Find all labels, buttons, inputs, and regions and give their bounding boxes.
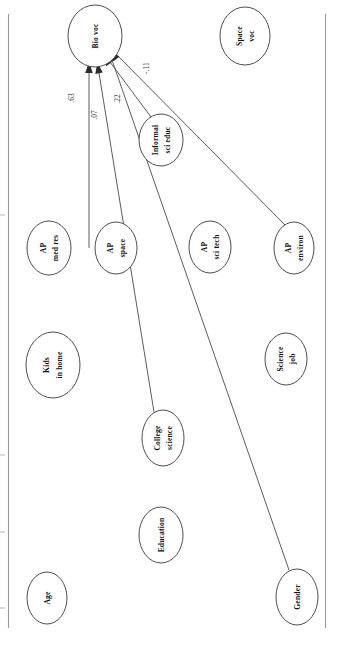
edge-label-college-science: .07 (90, 110, 99, 120)
node-label-space-voc-line1: Space (235, 26, 244, 46)
node-label-informal-line2: sci educ (163, 126, 172, 153)
node-science-job[interactable]: Science job (265, 333, 307, 385)
node-shape-ap-med-res (27, 221, 71, 275)
node-label-ap-med-res-line2: med res (51, 235, 60, 261)
node-label-kids-in-home-line2: in home (55, 351, 64, 378)
node-shape-kids-in-home (26, 332, 80, 398)
edge-gender-to-bio-voc (109, 51, 290, 571)
node-college-science[interactable]: College science (142, 410, 184, 466)
node-age[interactable]: Age (27, 572, 67, 624)
node-ap-environ[interactable]: AP environ (274, 222, 314, 274)
edge-label-ap-environ: -.11 (142, 62, 151, 74)
node-shape-college-science (142, 410, 184, 466)
edge-label-ap-space: .63 (67, 93, 76, 103)
node-shape-science-job (265, 333, 307, 385)
node-label-science-job-line1: Science (276, 346, 285, 372)
node-education[interactable]: Education (139, 507, 183, 563)
node-space-voc[interactable]: Space voc (220, 7, 270, 65)
node-label-ap-environ-line1: AP (284, 243, 293, 254)
node-label-ap-space-line2: space (118, 238, 127, 257)
path-diagram-figure: Bio voc Space voc Informal sci educ AP m… (0, 0, 346, 649)
node-shape-ap-space (95, 222, 137, 274)
edge-ap-space-to-bio-voc (85, 62, 93, 248)
edge-label-layer: .63 .07 .22 -.11 (67, 62, 151, 120)
node-label-education: Education (157, 517, 166, 552)
node-label-ap-space-line1: AP (106, 243, 115, 254)
node-label-kids-in-home-line1: Kids (42, 357, 51, 373)
node-ap-sci-tech[interactable]: AP sci tech (189, 221, 231, 273)
edge-ap-environ-to-bio-voc (111, 50, 288, 229)
path-diagram-canvas: Bio voc Space voc Informal sci educ AP m… (0, 0, 346, 649)
node-shape-space-voc (220, 7, 270, 65)
node-label-informal-line1: Informal (151, 125, 160, 155)
node-informal-sci-educ[interactable]: Informal sci educ (139, 114, 183, 166)
node-label-ap-med-res-line1: AP (39, 243, 48, 254)
node-label-college-science-line2: science (165, 426, 174, 450)
node-label-science-job-line2: job (288, 354, 297, 366)
node-label-ap-sci-tech-line2: sci tech (212, 234, 221, 260)
node-label-age: Age (43, 591, 52, 605)
node-gender[interactable]: Gender (276, 569, 318, 625)
node-ap-med-res[interactable]: AP med res (27, 221, 71, 275)
node-bio-voc[interactable]: Bio voc (68, 5, 122, 67)
node-shape-ap-sci-tech (189, 221, 231, 273)
node-label-ap-environ-line2: environ (296, 234, 305, 260)
node-shape-ap-environ (274, 222, 314, 274)
node-kids-in-home[interactable]: Kids in home (26, 332, 80, 398)
node-label-college-science-line1: College (153, 425, 162, 451)
node-shape-informal (139, 114, 183, 166)
edge-label-informal: .22 (113, 94, 122, 104)
node-label-gender: Gender (293, 584, 302, 610)
edge-layer (85, 50, 289, 571)
node-label-bio-voc: Bio voc (91, 23, 100, 48)
node-ap-space[interactable]: AP space (95, 222, 137, 274)
node-label-space-voc-line2: voc (247, 30, 256, 42)
node-label-ap-sci-tech-line1: AP (200, 242, 209, 253)
